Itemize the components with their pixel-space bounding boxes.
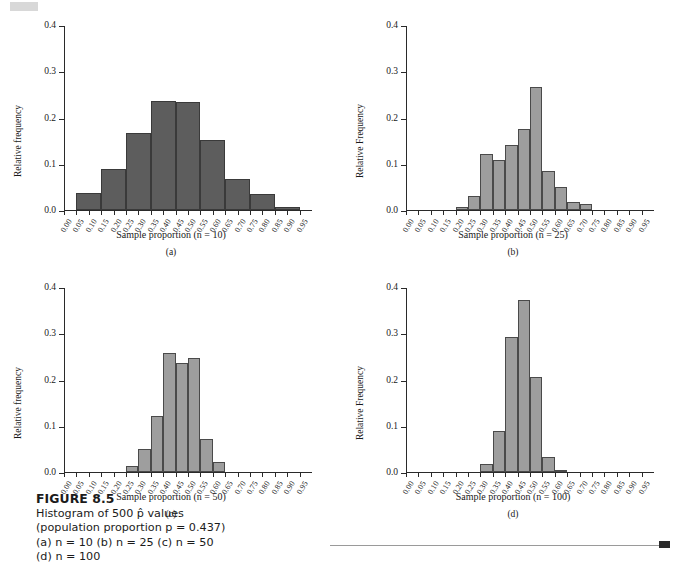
histogram-bar [530, 87, 542, 210]
histogram-bar [555, 187, 567, 210]
histogram-bar [275, 207, 300, 210]
plot-area-b: 0.00.10.20.30.40.000.050.100.150.200.250… [406, 26, 654, 211]
y-tick-d-2 [401, 381, 406, 382]
histogram-bar [101, 169, 126, 210]
histogram-bar [176, 363, 188, 472]
x-tick-a-10 [188, 211, 189, 215]
y-tick-a-2 [59, 119, 64, 120]
x-tick-c-15 [250, 473, 251, 477]
histogram-bar [505, 145, 517, 210]
histogram-panel-d: Relative Frequency 0.00.10.20.30.40.000.… [348, 278, 678, 528]
histogram-bar [250, 194, 275, 210]
x-tick-d-14 [580, 473, 581, 477]
x-tick-c-7 [151, 473, 152, 477]
figure-number: FIGURE 8.5 [36, 492, 336, 507]
x-tick-b-15 [592, 211, 593, 215]
plot-area-a: 0.00.10.20.30.40.000.050.100.150.200.250… [64, 26, 312, 211]
x-tick-d-3 [443, 473, 444, 477]
y-axis-title-a: Relative frequency [13, 105, 23, 177]
divider-end-marker [659, 541, 670, 548]
histogram-bar [126, 466, 138, 472]
x-tick-c-8 [163, 473, 164, 477]
x-tick-a-1 [76, 211, 77, 215]
histogram-bar [505, 337, 517, 472]
panel-letter-a: (a) [6, 247, 336, 257]
y-tick-label-c-3: 0.3 [44, 330, 56, 340]
bottom-divider [330, 545, 660, 546]
plot-area-d: 0.00.10.20.30.40.000.050.100.150.200.250… [406, 288, 654, 473]
figure-caption: FIGURE 8.5 Histogram of 500 p̂ values (p… [36, 492, 336, 565]
x-tick-b-9 [518, 211, 519, 215]
y-tick-label-c-1: 0.1 [44, 422, 56, 432]
y-tick-label-a-3: 0.3 [44, 68, 56, 78]
x-tick-b-11 [542, 211, 543, 215]
y-tick-b-1 [401, 165, 406, 166]
y-tick-a-3 [59, 72, 64, 73]
histogram-bar [542, 171, 554, 210]
x-tick-c-16 [262, 473, 263, 477]
y-tick-c-4 [59, 288, 64, 289]
y-axis-title-c: Relative frequency [13, 367, 23, 439]
histogram-bar [456, 207, 468, 210]
x-axis-title-d: Sample proportion (n = 100) [348, 491, 678, 502]
x-tick-d-2 [431, 473, 432, 477]
y-tick-c-3 [59, 334, 64, 335]
x-tick-a-19 [300, 211, 301, 215]
x-axis-title-b: Sample proportion (n = 25) [348, 229, 678, 240]
x-tick-a-0 [64, 211, 65, 215]
histogram-bar [151, 101, 176, 210]
x-tick-c-3 [101, 473, 102, 477]
histogram-bar [151, 416, 163, 472]
x-tick-d-18 [629, 473, 630, 477]
y-axis-line-c [64, 288, 65, 473]
x-tick-b-3 [443, 211, 444, 215]
y-tick-c-1 [59, 427, 64, 428]
x-tick-b-2 [431, 211, 432, 215]
x-tick-d-17 [617, 473, 618, 477]
y-tick-d-3 [401, 334, 406, 335]
panel-letter-b: (b) [348, 247, 678, 257]
x-tick-d-10 [530, 473, 531, 477]
histogram-bar [138, 449, 150, 472]
x-tick-c-17 [275, 473, 276, 477]
x-tick-b-18 [629, 211, 630, 215]
x-tick-a-8 [163, 211, 164, 215]
x-tick-d-9 [518, 473, 519, 477]
scan-artifact [10, 2, 38, 11]
histogram-panel-a: Relative frequency 0.00.10.20.30.40.000.… [6, 16, 336, 266]
histogram-bar [530, 377, 542, 472]
x-tick-c-10 [188, 473, 189, 477]
caption-line-4: (d) n = 100 [36, 550, 336, 565]
x-tick-b-13 [567, 211, 568, 215]
x-tick-a-4 [114, 211, 115, 215]
x-tick-c-5 [126, 473, 127, 477]
x-tick-a-9 [176, 211, 177, 215]
histogram-bar [493, 431, 505, 472]
x-tick-a-14 [238, 211, 239, 215]
y-tick-label-a-2: 0.2 [44, 114, 56, 124]
x-tick-b-8 [505, 211, 506, 215]
y-tick-label-c-2: 0.2 [44, 376, 56, 386]
y-tick-label-b-1: 0.1 [386, 160, 398, 170]
y-tick-label-a-4: 0.4 [44, 21, 56, 31]
histogram-bar [468, 196, 480, 210]
histogram-bar [176, 102, 201, 210]
histogram-bar [213, 462, 225, 472]
x-tick-b-10 [530, 211, 531, 215]
x-tick-c-12 [213, 473, 214, 477]
x-tick-a-16 [262, 211, 263, 215]
panel-letter-d: (d) [348, 509, 678, 519]
x-tick-a-12 [213, 211, 214, 215]
x-tick-d-15 [592, 473, 593, 477]
x-tick-b-7 [493, 211, 494, 215]
x-tick-a-15 [250, 211, 251, 215]
x-tick-d-4 [456, 473, 457, 477]
caption-line-2: (population proportion p = 0.437) [36, 521, 336, 536]
y-axis-line-b [406, 26, 407, 211]
x-tick-c-18 [287, 473, 288, 477]
histogram-bar [518, 300, 530, 473]
x-tick-d-8 [505, 473, 506, 477]
histogram-bar [518, 129, 530, 210]
x-tick-b-6 [480, 211, 481, 215]
x-tick-c-9 [176, 473, 177, 477]
